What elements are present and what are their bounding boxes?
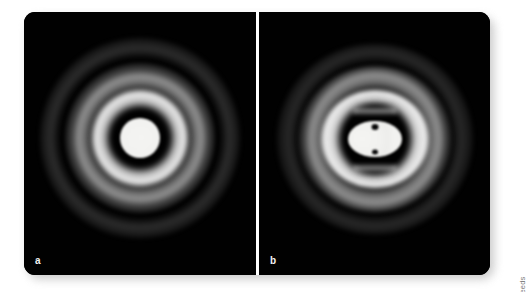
airy-b-first-ring	[321, 90, 429, 188]
airy-a-first-ring	[92, 90, 188, 186]
airy-b-lower-outer-fringe	[358, 178, 392, 185]
airy-b-second-ring	[299, 66, 451, 212]
panel-a-label: a	[35, 256, 41, 266]
panel-b: b	[259, 12, 490, 275]
airy-b-lower-fringe	[353, 164, 397, 173]
airy-b-top-notch	[372, 124, 379, 130]
airy-b-upper-fringe	[353, 107, 397, 116]
panel-a: a	[24, 12, 256, 275]
airy-b-bottom-notch	[372, 150, 378, 155]
image-plate: a b	[24, 12, 490, 275]
panel-b-label: b	[270, 256, 276, 266]
airy-a-outer-faint-ring	[40, 38, 240, 238]
airy-a-central-disk	[120, 118, 160, 158]
airy-b-merged-core	[348, 121, 402, 157]
airy-b-outer-faint-ring	[277, 44, 473, 234]
airy-a-second-ring	[65, 63, 215, 213]
photo-credit: Models produced by Michael A. Seeds	[520, 276, 528, 292]
airy-b-upper-outer-fringe	[358, 95, 392, 102]
figure-root: a b Models produced by Michael A. Seeds	[0, 0, 531, 292]
